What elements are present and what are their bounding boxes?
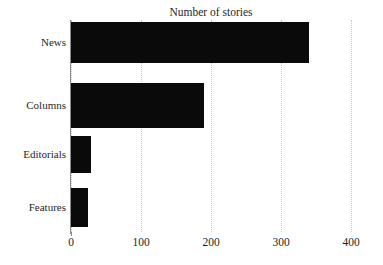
x-tick-label-100: 100 (132, 236, 149, 248)
category-labels: News Columns Editorials Features (0, 20, 66, 232)
category-label-news: News (0, 36, 66, 48)
bar-columns[interactable] (71, 83, 204, 128)
bar-chart: Number of stories News Columns Editorial… (0, 0, 383, 265)
category-label-features: Features (0, 201, 66, 213)
category-label-columns: Columns (0, 99, 66, 111)
bar-news[interactable] (71, 22, 309, 63)
chart-title: Number of stories (71, 6, 351, 18)
category-label-editorials: Editorials (0, 148, 66, 160)
x-tick-label-0: 0 (68, 236, 74, 248)
plot-area (71, 20, 351, 232)
gridline-400 (351, 20, 352, 232)
bar-editorials[interactable] (71, 136, 91, 173)
x-tick-label-300: 300 (272, 236, 289, 248)
bar-features[interactable] (71, 188, 88, 227)
x-tick-label-200: 200 (202, 236, 219, 248)
x-tick-label-400: 400 (342, 236, 359, 248)
x-tick-labels: 0 100 200 300 400 (0, 236, 383, 256)
bars-layer (71, 20, 351, 232)
